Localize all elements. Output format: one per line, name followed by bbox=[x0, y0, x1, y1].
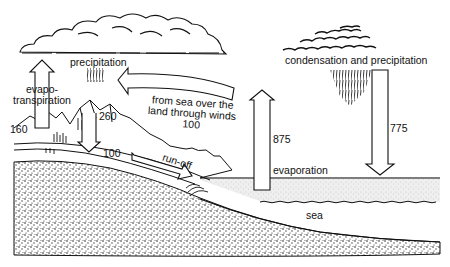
evapotranspiration-label-line2: transpiration bbox=[10, 95, 74, 106]
precipitation-label: precipitation bbox=[70, 57, 127, 68]
rain-streaks-sea bbox=[330, 70, 372, 106]
evapotranspiration-value: 160 bbox=[10, 124, 28, 135]
rain-cloud bbox=[283, 26, 376, 50]
evaporation-label: evaporation bbox=[273, 165, 328, 176]
land-precipitation-arrow bbox=[78, 113, 100, 152]
diagram-artwork bbox=[0, 0, 450, 267]
condensation-label: condensation and precipitation bbox=[285, 55, 427, 66]
vegetation bbox=[46, 118, 82, 154]
water-cycle-diagram: precipitation evapo- transpiration 160 2… bbox=[0, 0, 450, 267]
evapotranspiration-label: evapo- transpiration bbox=[10, 84, 74, 106]
land-precipitation-value: 260 bbox=[99, 111, 117, 122]
sea-evaporation-arrow bbox=[250, 90, 274, 190]
sea-surface bbox=[200, 177, 440, 202]
runoff-value: 100 bbox=[103, 148, 121, 159]
cumulus-cloud bbox=[20, 14, 226, 54]
sea-label: sea bbox=[306, 210, 323, 221]
sea-evaporation-value: 875 bbox=[273, 134, 291, 145]
rain-streaks-land bbox=[86, 68, 104, 82]
sea-precipitation-value: 775 bbox=[390, 123, 408, 134]
